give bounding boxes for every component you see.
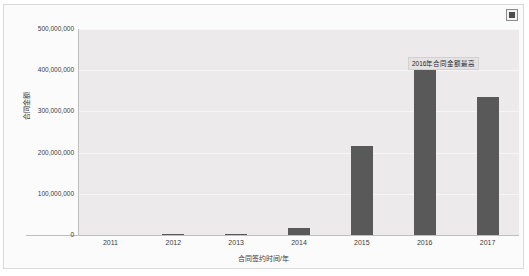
gridline (79, 194, 519, 195)
y-tick-label: 200,000,000 (6, 149, 74, 157)
x-tick-label-2013: 2013 (206, 239, 266, 246)
gridline (79, 70, 519, 71)
bar-chart-widget: 合同金额 0100,000,000200,000,000300,000,0004… (3, 4, 524, 269)
x-tick-label-2017: 2017 (458, 239, 518, 246)
x-tick-label-2016: 2016 (395, 239, 455, 246)
bar-2015[interactable] (351, 146, 373, 235)
y-tick-label: 0 (6, 231, 74, 239)
x-tick-label-2012: 2012 (143, 239, 203, 246)
x-axis-title: 合同签约时间/年 (4, 253, 523, 263)
gridline (79, 111, 519, 112)
x-axis-line (26, 235, 519, 236)
x-tick-label-2014: 2014 (269, 239, 329, 246)
y-tick-label: 100,000,000 (6, 190, 74, 198)
bar-2014[interactable] (288, 228, 310, 235)
bar-2017[interactable] (477, 97, 499, 235)
y-axis-title: 合同金额 (21, 71, 31, 141)
annotation-label-2016: 2016年合同金额最高 (408, 57, 479, 70)
gridline (79, 153, 519, 154)
bar-2016[interactable] (414, 70, 436, 235)
broken-image-icon[interactable] (506, 9, 518, 21)
y-tick-label: 300,000,000 (6, 107, 74, 115)
broken-image-glyph (509, 12, 515, 18)
y-axis-line (78, 29, 79, 236)
x-tick-label-2015: 2015 (332, 239, 392, 246)
gridline (79, 29, 519, 30)
x-tick-label-2011: 2011 (80, 239, 140, 246)
y-tick-label: 400,000,000 (6, 66, 74, 74)
y-tick-label: 500,000,000 (6, 25, 74, 33)
bar-2012[interactable] (162, 234, 184, 235)
bar-2013[interactable] (225, 234, 247, 235)
